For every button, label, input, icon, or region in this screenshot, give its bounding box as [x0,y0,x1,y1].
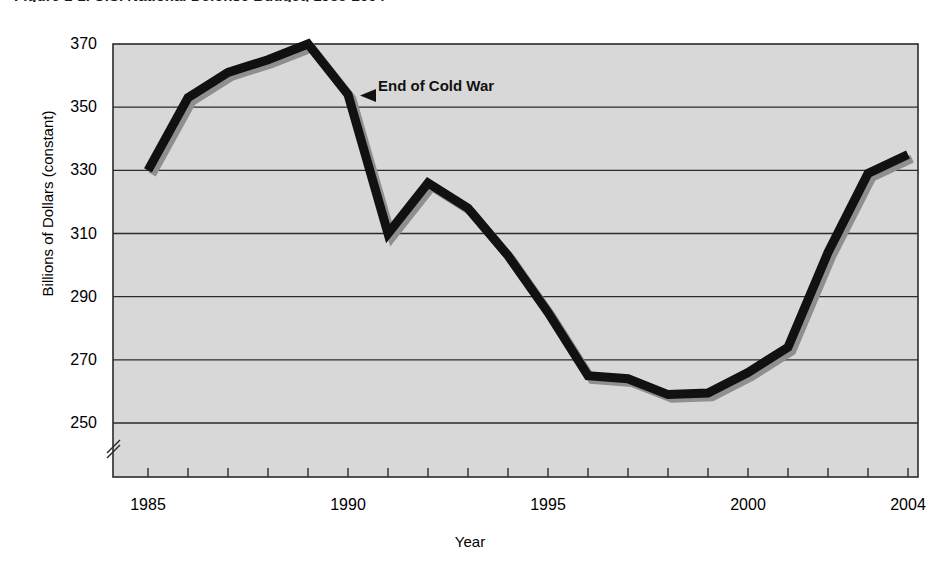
chart-figure: Figure 1-1. U.S. National Defense Budget… [0,0,940,570]
annotation-label: End of Cold War [378,77,494,94]
